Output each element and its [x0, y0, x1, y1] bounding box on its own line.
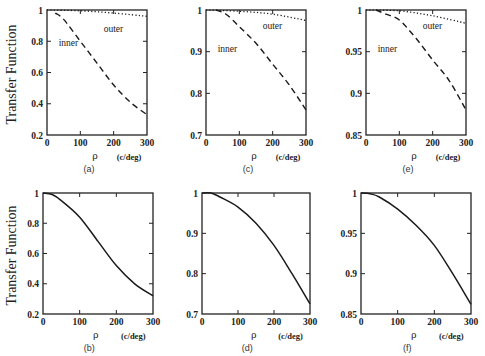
- y-tick-label: 0.8: [190, 89, 202, 99]
- x-tick-label: 0: [41, 317, 46, 327]
- y-tick-label: 1: [357, 6, 362, 16]
- annotation-outer: outer: [423, 21, 443, 31]
- annotation-outer: outer: [104, 24, 124, 34]
- x-tick-label: 200: [427, 317, 442, 327]
- x-tick-label: 200: [266, 138, 281, 148]
- x-axis-label: ρ: [251, 149, 257, 161]
- x-axis-unit: (c/deg): [121, 331, 146, 341]
- y-tick-label: 1: [38, 6, 43, 16]
- x-tick-label: 300: [464, 317, 479, 327]
- x-tick-label: 200: [426, 138, 441, 148]
- plot-frame: [366, 10, 466, 135]
- x-axis-unit: (c/deg): [117, 152, 142, 162]
- y-tick-label: 1: [197, 6, 202, 16]
- x-tick-label: 100: [73, 317, 88, 327]
- panel-c: 01002003000.70.80.91innerouterρ(c/deg)(c…: [190, 6, 313, 175]
- y-tick-label: 0.7: [190, 131, 202, 141]
- x-axis-label: ρ: [251, 328, 257, 340]
- x-tick-label: 0: [204, 138, 209, 148]
- x-tick-label: 0: [364, 138, 369, 148]
- x-axis-unit: (c/deg): [439, 331, 464, 341]
- x-axis-label: ρ: [93, 328, 99, 340]
- y-tick-label: 0.6: [31, 68, 43, 78]
- x-tick-label: 200: [107, 138, 122, 148]
- panel-caption: (c): [243, 164, 254, 174]
- series-inner: [216, 10, 306, 110]
- x-tick-label: 100: [231, 317, 246, 327]
- x-tick-label: 200: [267, 317, 282, 327]
- y-tick-label: 0.9: [190, 47, 202, 57]
- x-axis-label: ρ: [411, 149, 417, 161]
- x-tick-label: 0: [200, 317, 205, 327]
- x-tick-label: 200: [109, 317, 124, 327]
- panel-caption: (a): [84, 164, 95, 174]
- y-tick-label: 0.9: [186, 229, 198, 239]
- y-tick-label: 1: [34, 189, 39, 199]
- y-tick-label: 0.8: [27, 219, 39, 229]
- y-tick-label: 0.2: [31, 131, 43, 141]
- x-tick-label: 300: [459, 138, 474, 148]
- y-tick-label: 0.95: [345, 47, 362, 57]
- plot-frame: [43, 193, 153, 314]
- x-tick-label: 300: [303, 317, 318, 327]
- x-axis-unit: (c/deg): [278, 331, 303, 341]
- x-tick-label: 0: [45, 138, 50, 148]
- x-tick-label: 300: [140, 138, 155, 148]
- plot-frame: [206, 10, 306, 135]
- series-transfer: [202, 193, 310, 304]
- x-axis-unit: (c/deg): [436, 152, 461, 162]
- x-tick-label: 100: [392, 138, 407, 148]
- panel-a: 01002003000.20.40.60.81innerouterρ(c/deg…: [4, 6, 154, 175]
- annotation-inner: inner: [59, 38, 79, 48]
- y-tick-label: 0.2: [27, 310, 39, 320]
- y-tick-label: 0.85: [345, 131, 362, 141]
- panel-caption: (d): [242, 343, 253, 353]
- series-outer: [47, 10, 147, 16]
- y-tick-label: 0.7: [186, 310, 198, 320]
- y-tick-label: 0.4: [27, 279, 39, 289]
- panel-caption: (e): [403, 164, 414, 174]
- plot-frame: [47, 10, 147, 135]
- series-transfer: [361, 193, 471, 304]
- annotation-inner: inner: [218, 44, 238, 54]
- panel-d: 01002003000.70.80.91ρ(c/deg)(d): [186, 189, 317, 354]
- y-axis-label: Transfer Function: [4, 205, 19, 305]
- annotation-outer: outer: [263, 21, 283, 31]
- y-axis-label: Transfer Function: [4, 24, 19, 124]
- x-axis-label: ρ: [411, 328, 417, 340]
- x-tick-label: 100: [232, 138, 247, 148]
- series-transfer: [43, 193, 153, 296]
- y-tick-label: 1: [193, 189, 198, 199]
- x-tick-label: 300: [146, 317, 161, 327]
- transfer-function-figure: 01002003000.20.40.60.81innerouterρ(c/deg…: [0, 0, 485, 356]
- x-axis-label: ρ: [92, 149, 98, 161]
- y-tick-label: 0.85: [340, 310, 357, 320]
- y-tick-label: 0.6: [27, 249, 39, 259]
- panel-e: 01002003000.850.90.951innerouterρ(c/deg)…: [345, 6, 473, 175]
- plot-frame: [361, 193, 471, 314]
- x-tick-label: 100: [73, 138, 88, 148]
- annotation-inner: inner: [378, 44, 398, 54]
- panel-caption: (b): [84, 343, 95, 353]
- panel-f: 01002003000.850.90.951ρ(c/deg)(f): [340, 189, 478, 354]
- y-tick-label: 0.9: [350, 89, 362, 99]
- x-tick-label: 300: [299, 138, 314, 148]
- y-tick-label: 0.8: [186, 269, 198, 279]
- panel-b: 01002003000.20.40.60.81ρ(c/deg)(b)Transf…: [4, 189, 160, 354]
- y-tick-label: 0.4: [31, 99, 43, 109]
- x-tick-label: 0: [359, 317, 364, 327]
- y-tick-label: 0.8: [31, 37, 43, 47]
- plot-frame: [202, 193, 310, 314]
- y-tick-label: 1: [352, 189, 357, 199]
- y-tick-label: 0.95: [340, 229, 357, 239]
- series-inner: [376, 10, 466, 110]
- y-tick-label: 0.9: [345, 269, 357, 279]
- series-inner: [55, 13, 147, 115]
- x-axis-unit: (c/deg): [276, 152, 301, 162]
- x-tick-label: 100: [391, 317, 406, 327]
- panel-caption: (f): [403, 343, 412, 353]
